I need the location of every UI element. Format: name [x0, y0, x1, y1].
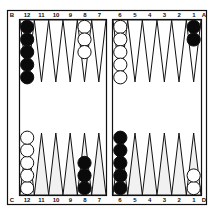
corner-label-a: A [202, 12, 207, 18]
black-checker[interactable] [187, 20, 200, 33]
right-half-field [113, 20, 202, 196]
white-checker[interactable] [187, 169, 200, 182]
black-checker[interactable] [114, 169, 127, 182]
bottom-label-11: 11 [38, 197, 45, 203]
corner-label-c: C [10, 197, 15, 203]
left-half-field [20, 20, 107, 196]
corner-label-b: B [10, 12, 15, 18]
white-checker[interactable] [21, 156, 34, 169]
white-checker[interactable] [78, 20, 91, 33]
black-checker[interactable] [21, 20, 34, 33]
corner-label-d: D [202, 197, 207, 203]
white-checker[interactable] [21, 182, 34, 195]
white-checker[interactable] [21, 131, 34, 144]
black-checker[interactable] [21, 33, 34, 46]
black-checker[interactable] [78, 156, 91, 169]
white-checker[interactable] [78, 46, 91, 59]
black-checker[interactable] [114, 144, 127, 157]
black-checker[interactable] [114, 182, 127, 195]
white-checker[interactable] [114, 20, 127, 33]
white-checker[interactable] [114, 58, 127, 71]
black-checker[interactable] [187, 33, 200, 46]
white-checker[interactable] [21, 169, 34, 182]
black-checker[interactable] [114, 156, 127, 169]
top-label-11: 11 [38, 12, 45, 18]
bottom-label-12: 12 [24, 197, 31, 203]
bottom-label-10: 10 [53, 197, 60, 203]
top-label-12: 12 [24, 12, 31, 18]
top-label-10: 10 [53, 12, 60, 18]
white-checker[interactable] [114, 33, 127, 46]
white-checker[interactable] [21, 144, 34, 157]
white-checker[interactable] [187, 182, 200, 195]
black-checker[interactable] [21, 58, 34, 71]
white-checker[interactable] [114, 46, 127, 59]
black-checker[interactable] [21, 46, 34, 59]
white-checker[interactable] [78, 33, 91, 46]
black-checker[interactable] [21, 71, 34, 84]
black-checker[interactable] [78, 182, 91, 195]
black-checker[interactable] [114, 131, 127, 144]
backgammon-board: B A C D 12 11 10 9 8 7 6 5 4 3 2 1 12 11… [0, 0, 220, 214]
white-checker[interactable] [114, 71, 127, 84]
black-checker[interactable] [78, 169, 91, 182]
